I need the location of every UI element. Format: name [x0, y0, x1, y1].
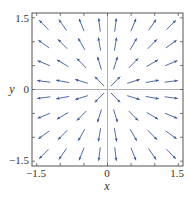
vector-arrow: [97, 37, 100, 50]
arrowhead-icon: [136, 79, 139, 82]
vector-arrow: [167, 149, 176, 158]
vector-arrow: [37, 80, 50, 83]
vector-arrow: [166, 131, 177, 139]
vector-arrow: [127, 79, 140, 83]
vector-arrow: [129, 111, 138, 120]
vector-arrow: [38, 40, 49, 48]
vector-arrow: [115, 18, 118, 31]
vector-arrow: [98, 147, 101, 160]
vector-arrow: [165, 113, 177, 118]
vector-arrow: [127, 96, 140, 100]
vector-arrow: [59, 149, 67, 160]
vector-arrow: [146, 79, 159, 82]
vector-arrow: [59, 19, 67, 30]
vector-arrow: [56, 96, 69, 99]
vector-arrow: [38, 131, 49, 139]
vector-arrow: [78, 38, 85, 50]
vector-arrow: [39, 20, 48, 29]
x-tick-label-max: 1.5: [170, 167, 184, 179]
vector-arrow: [148, 130, 157, 139]
y-tick-label-zero: 0: [24, 83, 30, 95]
vector-arrow: [97, 109, 101, 122]
vector-arrow: [129, 58, 138, 67]
vector-arrow: [131, 148, 136, 160]
vector-arrow: [111, 77, 120, 86]
vector-arrow: [39, 149, 48, 158]
arrowhead-icon: [115, 57, 118, 60]
vector-arrow: [114, 128, 117, 141]
y-tick-label-max: 1.5: [15, 12, 29, 24]
vector-arrow: [38, 61, 50, 66]
arrowhead-icon: [115, 119, 118, 122]
vector-arrow: [75, 79, 88, 83]
vector-arrow: [38, 113, 50, 118]
vector-arrow: [149, 149, 157, 160]
x-axis-label: x: [103, 179, 110, 193]
origin-axes: [32, 13, 183, 166]
vector-arrow: [167, 20, 176, 29]
vector-arrow: [165, 61, 177, 66]
vector-arrow: [95, 93, 104, 102]
vector-arrow: [165, 97, 178, 100]
arrowhead-icon: [97, 57, 100, 60]
vector-arrow: [97, 57, 101, 70]
vector-arrow: [57, 112, 68, 119]
arrowhead-icon: [75, 79, 78, 82]
vector-arrow: [58, 39, 67, 48]
vector-arrow: [114, 57, 118, 70]
vector-arrow: [166, 40, 177, 48]
y-axis-label: y: [8, 82, 15, 96]
vector-arrow: [57, 60, 68, 67]
vector-arrow: [114, 37, 117, 50]
arrowhead-icon: [136, 97, 139, 100]
vector-arrow: [111, 93, 120, 102]
vector-arrow: [56, 79, 69, 82]
vector-arrow: [37, 97, 50, 100]
vector-arrow: [130, 38, 137, 50]
vector-arrow: [77, 111, 86, 120]
vector-arrow: [149, 19, 157, 30]
vector-arrow: [79, 19, 84, 31]
vector-arrow: [115, 147, 118, 160]
vector-arrow: [97, 128, 100, 141]
vector-arrow: [78, 129, 85, 141]
x-tick-label-min: −1.5: [26, 167, 46, 179]
y-tick-label-min: −1.5: [9, 154, 29, 166]
vector-arrow: [146, 96, 159, 99]
vector-arrow: [58, 130, 67, 139]
vector-arrow: [131, 19, 136, 31]
vector-arrow: [79, 148, 84, 160]
vector-arrow: [114, 109, 118, 122]
x-tick-label-zero: 0: [104, 167, 110, 179]
vector-field-plot: 1.5 0 −1.5 −1.5 0 1.5 x y: [0, 0, 189, 197]
vector-arrow: [95, 77, 104, 86]
vector-arrow: [148, 39, 157, 48]
vector-arrow: [165, 80, 178, 83]
arrowhead-icon: [97, 119, 100, 122]
vector-arrow: [77, 58, 86, 67]
vector-arrow: [98, 18, 101, 31]
vector-arrow: [147, 60, 158, 67]
vector-arrow: [147, 112, 158, 119]
vector-arrow: [75, 96, 88, 100]
vector-arrow: [130, 129, 137, 141]
arrowhead-icon: [75, 97, 78, 100]
